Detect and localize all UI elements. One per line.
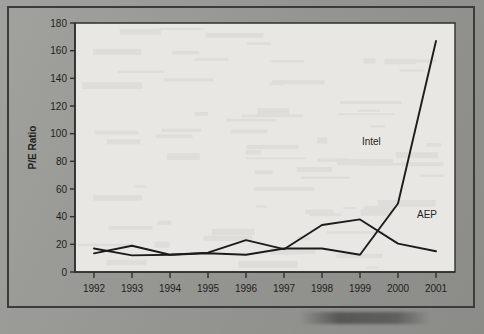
y-axis-tick-label: 20 xyxy=(56,239,68,250)
y-axis-tick-label: 160 xyxy=(50,45,67,56)
y-axis-tick-label: 80 xyxy=(56,156,68,167)
y-axis-tick-label: 180 xyxy=(50,18,67,29)
series-label-aep: AEP xyxy=(417,209,437,220)
x-axis-tick-label: 1995 xyxy=(197,283,220,294)
y-axis-tick-label: 60 xyxy=(56,184,68,195)
x-axis-tick-label: 2001 xyxy=(425,283,448,294)
y-axis-tick-label: 0 xyxy=(61,267,67,278)
x-axis-tick-label: 1997 xyxy=(273,283,296,294)
y-axis-tick-label: 40 xyxy=(56,211,68,222)
x-axis-tick-label: 1998 xyxy=(311,283,334,294)
x-axis-tick-label: 1994 xyxy=(159,283,182,294)
y-axis-tick-label: 120 xyxy=(50,101,67,112)
x-axis-tick-label: 1999 xyxy=(349,283,372,294)
series-label-intel: Intel xyxy=(362,136,381,147)
x-axis-tick-label: 2000 xyxy=(387,283,410,294)
pe-ratio-line-chart: 020406080100120140160180P/E Ratio1992199… xyxy=(0,0,484,334)
y-axis-title: P/E Ratio xyxy=(27,126,38,170)
x-axis-tick-label: 1992 xyxy=(83,283,106,294)
y-axis-tick-label: 140 xyxy=(50,73,67,84)
chart-canvas: 020406080100120140160180P/E Ratio1992199… xyxy=(0,0,484,334)
y-axis-tick-label: 100 xyxy=(50,128,67,139)
x-axis-tick-label: 1996 xyxy=(235,283,258,294)
x-axis-tick-label: 1993 xyxy=(121,283,144,294)
